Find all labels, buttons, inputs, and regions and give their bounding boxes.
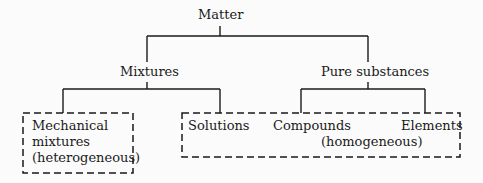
node-solutions: Solutions [188,118,250,133]
node-elements: Elements [401,118,463,133]
label-homogeneous: (homogeneous) [321,134,422,149]
node-mechanical-line3: (heterogeneous) [32,150,140,165]
node-mechanical-line2: mixtures [32,134,90,149]
node-pure-substances: Pure substances [321,64,429,79]
node-mechanical-line1: Mechanical [32,118,108,133]
node-matter: Matter [198,7,243,22]
node-mixtures: Mixtures [120,64,179,79]
node-compounds: Compounds [273,118,351,133]
